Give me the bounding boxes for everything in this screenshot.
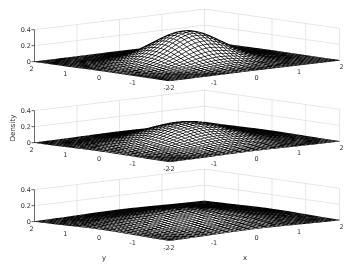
- y-tick-label: 2: [29, 65, 33, 72]
- x-tick-label: 2: [339, 64, 343, 71]
- z-tick-label: 0.2: [21, 202, 31, 209]
- x-tick-label: 1: [297, 69, 301, 76]
- x-tick-label: -1: [211, 79, 217, 86]
- y-tick-label: 1: [63, 70, 67, 77]
- x-tick-label: -2: [168, 84, 174, 91]
- y-tick-label: 0: [97, 75, 101, 82]
- y-tick-label: -1: [130, 240, 136, 247]
- mesh-surface-canvas: [0, 0, 347, 279]
- x-tick-label: 1: [297, 229, 301, 236]
- x-tick-label: 1: [297, 150, 301, 157]
- x-tick-label: 2: [339, 145, 343, 152]
- y-tick-label: 2: [29, 225, 33, 232]
- x-tick-label: -2: [168, 165, 174, 172]
- x-tick-label: -1: [211, 239, 217, 246]
- y-tick-label: -1: [130, 161, 136, 168]
- x-tick-label: 0: [254, 234, 258, 241]
- x-tick-label: 0: [254, 155, 258, 162]
- z-tick-label: 0.4: [21, 107, 31, 114]
- y-axis-label: y: [102, 254, 106, 262]
- z-tick-label: 0.2: [21, 42, 31, 49]
- x-tick-label: -2: [168, 244, 174, 251]
- y-tick-label: 0: [97, 156, 101, 163]
- y-tick-label: -1: [130, 80, 136, 87]
- z-tick-label: 0.4: [21, 186, 31, 193]
- y-tick-label: 0: [97, 235, 101, 242]
- x-axis-label: x: [243, 254, 247, 262]
- y-tick-label: 1: [63, 151, 67, 158]
- z-axis-label-density: Density: [9, 115, 17, 142]
- x-tick-label: 0: [254, 74, 258, 81]
- y-tick-label: 2: [29, 146, 33, 153]
- x-tick-label: -1: [211, 160, 217, 167]
- x-tick-label: 2: [339, 224, 343, 231]
- z-tick-label: 0.2: [21, 123, 31, 130]
- y-tick-label: 1: [63, 230, 67, 237]
- z-tick-label: 0.4: [21, 26, 31, 33]
- figure-panel: Density y x 00.20.4210-1-2-2-101200.20.4…: [0, 0, 347, 279]
